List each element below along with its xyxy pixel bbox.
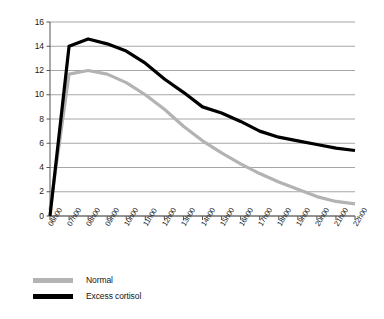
y-tick-label: 16	[18, 18, 44, 27]
y-tick-label: 8	[18, 115, 44, 124]
cortisol-line-chart: 0246810121416 06h0007h0008h0009h0010h001…	[0, 0, 384, 319]
gridlines	[50, 22, 355, 216]
legend-item-normal: Normal	[33, 272, 283, 288]
legend-swatch-normal	[33, 278, 73, 283]
series-line-normal	[50, 71, 355, 210]
y-tick-label: 14	[18, 42, 44, 51]
legend-label-excess-cortisol: Excess cortisol	[86, 291, 141, 301]
y-axis-tick-marks	[47, 22, 51, 216]
y-tick-label: 4	[18, 163, 44, 172]
y-tick-label: 6	[18, 139, 44, 148]
y-tick-label: 12	[18, 66, 44, 75]
plot-svg	[0, 0, 384, 240]
y-tick-label: 0	[18, 212, 44, 221]
chart-legend: Normal Excess cortisol	[33, 272, 283, 304]
y-tick-label: 2	[18, 187, 44, 196]
legend-item-excess-cortisol: Excess cortisol	[33, 288, 283, 304]
legend-label-normal: Normal	[86, 275, 113, 285]
y-tick-label: 10	[18, 90, 44, 99]
data-series-group	[50, 39, 355, 216]
legend-swatch-excess-cortisol	[33, 294, 73, 299]
plot-area: 0246810121416 06h0007h0008h0009h0010h001…	[0, 0, 384, 240]
series-line-excess-cortisol	[50, 39, 355, 216]
